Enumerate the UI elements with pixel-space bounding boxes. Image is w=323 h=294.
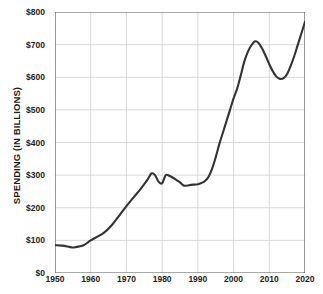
- x-tick-label: 2010: [260, 275, 279, 284]
- x-tick-label: 2020: [296, 275, 315, 284]
- x-tick-label: 1960: [81, 275, 100, 284]
- x-tick-label: 1980: [153, 275, 172, 284]
- x-tick-label: 2000: [224, 275, 243, 284]
- x-axis-tick-labels: 19501960197019801990200020102020: [0, 0, 323, 294]
- spending-line-chart: SPENDING (IN BILLIONS) $0$100$200$300$40…: [0, 0, 323, 294]
- x-tick-label: 1990: [188, 275, 207, 284]
- x-tick-label: 1970: [117, 275, 136, 284]
- x-tick-label: 1950: [46, 275, 65, 284]
